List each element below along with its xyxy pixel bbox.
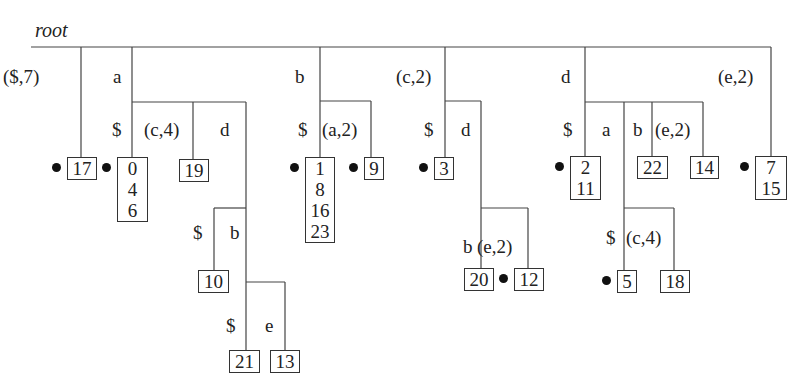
leaf-value: 8 [308, 179, 332, 200]
leaf-node: 181623 [305, 157, 335, 243]
edge-label: (e,2) [718, 67, 753, 87]
edge-label: $ [563, 120, 573, 140]
bullet-icon [602, 276, 611, 285]
edge-label: b [295, 67, 305, 87]
bullet-icon [555, 162, 564, 171]
leaf-node: 13 [270, 350, 300, 373]
leaf-value: 7 [758, 157, 784, 178]
edge-label: d [561, 67, 571, 87]
leaf-value: 6 [120, 200, 145, 221]
edge-label: a [113, 67, 121, 87]
leaf-value: 14 [693, 157, 716, 178]
leaf-node: 10 [198, 270, 229, 293]
edge-label: b [633, 120, 643, 140]
leaf-value: 20 [467, 269, 491, 290]
leaf-value: 15 [758, 178, 784, 199]
edge-label: $ [606, 228, 616, 248]
suffix-tree-diagram: root [0, 0, 811, 391]
edge-label: b [463, 237, 473, 257]
leaf-value: 3 [437, 158, 451, 179]
leaf-value: 21 [232, 351, 257, 372]
edge-label: d [220, 120, 230, 140]
edge-label: (c,4) [144, 120, 179, 140]
leaf-value: 0 [120, 158, 145, 179]
leaf-value: 22 [640, 157, 665, 178]
bullet-icon [740, 162, 749, 171]
edge-label: e [265, 316, 273, 336]
leaf-node: 3 [434, 157, 454, 180]
leaf-value: 5 [620, 271, 634, 292]
edge-label: (a,2) [322, 120, 357, 140]
edge-label: (c,4) [626, 228, 661, 248]
leaf-value: 2 [573, 157, 598, 178]
edge-label: (c,2) [396, 67, 431, 87]
leaf-node: 17 [67, 157, 97, 180]
leaf-node: 12 [514, 268, 544, 291]
leaf-node: 21 [229, 350, 260, 373]
leaf-node: 5 [617, 270, 637, 293]
bullet-icon [102, 163, 111, 172]
leaf-value: 12 [517, 269, 541, 290]
leaf-node: 046 [117, 157, 148, 222]
leaf-node: 19 [179, 159, 209, 182]
edge-label: a [602, 120, 610, 140]
leaf-node: 22 [637, 156, 668, 179]
leaf-node: 715 [755, 156, 787, 200]
leaf-node: 20 [464, 268, 494, 291]
leaf-value: 11 [573, 178, 598, 199]
leaf-value: 23 [308, 221, 332, 242]
edge-label: $ [424, 120, 434, 140]
edge-label: $ [298, 120, 308, 140]
leaf-value: 10 [201, 271, 226, 292]
edge-label: b [230, 223, 240, 243]
leaf-value: 13 [273, 351, 297, 372]
edge-label: (e,2) [655, 120, 690, 140]
leaf-value: 16 [308, 200, 332, 221]
edge-label: ($,7) [3, 67, 39, 87]
edge-label: $ [226, 316, 236, 336]
leaf-value: 19 [182, 160, 206, 181]
leaf-node: 211 [570, 156, 601, 200]
edge-label: $ [112, 120, 122, 140]
leaf-value: 18 [663, 271, 687, 292]
bullet-icon [419, 163, 428, 172]
bullet-icon [52, 163, 61, 172]
leaf-node: 9 [364, 157, 384, 180]
leaf-node: 18 [660, 270, 690, 293]
bullet-icon [349, 163, 358, 172]
bullet-icon [290, 163, 299, 172]
leaf-value: 1 [308, 158, 332, 179]
edge-label: (e,2) [477, 237, 512, 257]
leaf-value: 9 [367, 158, 381, 179]
bullet-icon [499, 274, 508, 283]
edge-label: $ [193, 223, 203, 243]
leaf-value: 17 [70, 158, 94, 179]
edge-label: d [461, 120, 471, 140]
leaf-node: 14 [690, 156, 719, 179]
leaf-value: 4 [120, 179, 145, 200]
